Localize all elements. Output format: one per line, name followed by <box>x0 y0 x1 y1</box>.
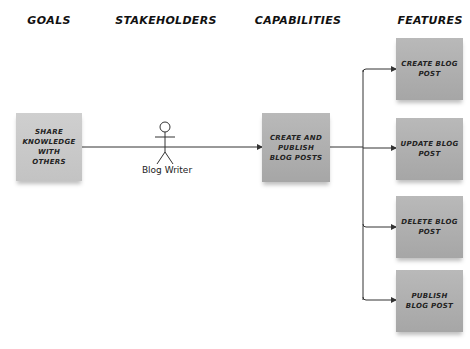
feature-note-label: DELETE BLOG POST <box>396 217 463 237</box>
stakeholder-label: Blog Writer <box>142 165 192 175</box>
goal-note-label: SHARE KNOWLEDGE WITH OTHERS <box>16 127 82 167</box>
feature-note-delete[interactable]: DELETE BLOG POST <box>396 196 463 258</box>
capability-note[interactable]: CREATE AND PUBLISH BLOG POSTS <box>262 113 330 182</box>
stick-figure-actor-icon <box>155 122 175 164</box>
feature-note-label: UPDATE BLOG POST <box>396 139 463 159</box>
capability-note-label: CREATE AND PUBLISH BLOG POSTS <box>262 133 330 163</box>
goal-note[interactable]: SHARE KNOWLEDGE WITH OTHERS <box>16 113 82 181</box>
feature-note-create[interactable]: CREATE BLOG POST <box>396 38 463 100</box>
feature-note-label: CREATE BLOG POST <box>396 59 463 79</box>
feature-note-update[interactable]: UPDATE BLOG POST <box>396 118 463 180</box>
feature-note-publish[interactable]: PUBLISH BLOG POST <box>396 270 463 332</box>
feature-note-label: PUBLISH BLOG POST <box>396 291 463 311</box>
